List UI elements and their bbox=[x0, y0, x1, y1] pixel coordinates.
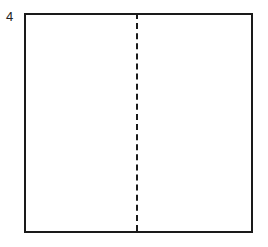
dashed-fold-line bbox=[136, 13, 138, 231]
step-number: 4 bbox=[6, 9, 13, 24]
square-paper bbox=[24, 13, 253, 233]
